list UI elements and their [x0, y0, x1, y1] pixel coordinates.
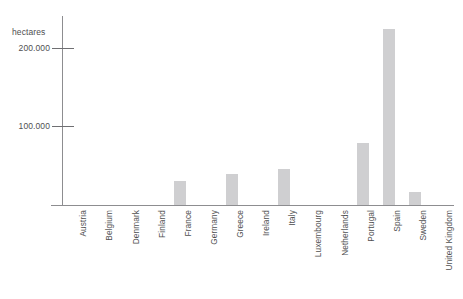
x-axis-label: Italy	[287, 210, 297, 226]
bar	[226, 174, 238, 205]
bar-slot	[245, 16, 271, 205]
bar-slot	[271, 16, 297, 205]
bar-slot	[376, 16, 402, 205]
bar-chart: hectares 100.000200.000 AustriaBelgiumDe…	[0, 0, 463, 299]
bar-slot	[114, 16, 140, 205]
x-axis-label: United Kingdom	[444, 210, 454, 270]
bar-slot	[428, 16, 454, 205]
x-axis-label: Germany	[209, 210, 219, 245]
plot-area	[62, 16, 454, 205]
bar	[383, 29, 395, 205]
bar	[278, 169, 290, 205]
bar-slot	[167, 16, 193, 205]
x-axis-label: Spain	[392, 210, 402, 232]
x-axis-label: France	[183, 210, 193, 236]
x-axis-label: Belgium	[104, 210, 114, 241]
x-axis-label: Ireland	[261, 210, 271, 236]
bar	[174, 181, 186, 205]
y-tick-label: 100.000	[8, 121, 50, 131]
x-axis-label: Portugal	[366, 210, 376, 242]
bar-slot	[323, 16, 349, 205]
bar	[409, 192, 421, 205]
y-axis-title: hectares	[12, 27, 45, 37]
x-axis-label: Netherlands	[340, 210, 350, 256]
bar-slot	[297, 16, 323, 205]
x-axis-line	[51, 205, 454, 206]
bar-slot	[88, 16, 114, 205]
x-axis-label: Luxembourg	[313, 210, 323, 257]
bar-slot	[402, 16, 428, 205]
bar-slot	[349, 16, 375, 205]
bar-slot	[219, 16, 245, 205]
x-axis-label: Finland	[157, 210, 167, 238]
bar-slot	[193, 16, 219, 205]
x-axis-label: Greece	[235, 210, 245, 238]
bar-slot	[62, 16, 88, 205]
x-axis-label: Sweden	[418, 210, 428, 241]
x-axis-label: Austria	[78, 210, 88, 237]
x-axis-label: Denmark	[131, 210, 141, 244]
y-tick-label: 200.000	[8, 43, 50, 53]
bar	[357, 143, 369, 205]
bar-slot	[140, 16, 166, 205]
